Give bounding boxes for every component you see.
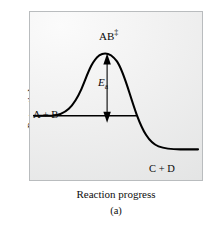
reactants-label: A + B (33, 110, 58, 121)
transition-state-label: AB‡ (99, 31, 118, 42)
activation-energy-subscript: a (105, 82, 108, 91)
energy-profile-curve (34, 54, 198, 150)
products-label: C + D (149, 164, 175, 175)
transition-state-text: AB (99, 30, 114, 42)
activation-energy-label: Ea (98, 77, 108, 88)
x-axis-label: Reaction progress (29, 188, 203, 200)
figure-caption: (a) (29, 205, 203, 216)
reaction-energy-diagram-figure: Potential energy AB‡ Ea A + B C + D Reac… (0, 0, 222, 225)
activation-energy-symbol: E (98, 76, 105, 88)
plot-area: AB‡ Ea A + B C + D (29, 11, 203, 181)
double-dagger-icon: ‡ (114, 28, 118, 37)
